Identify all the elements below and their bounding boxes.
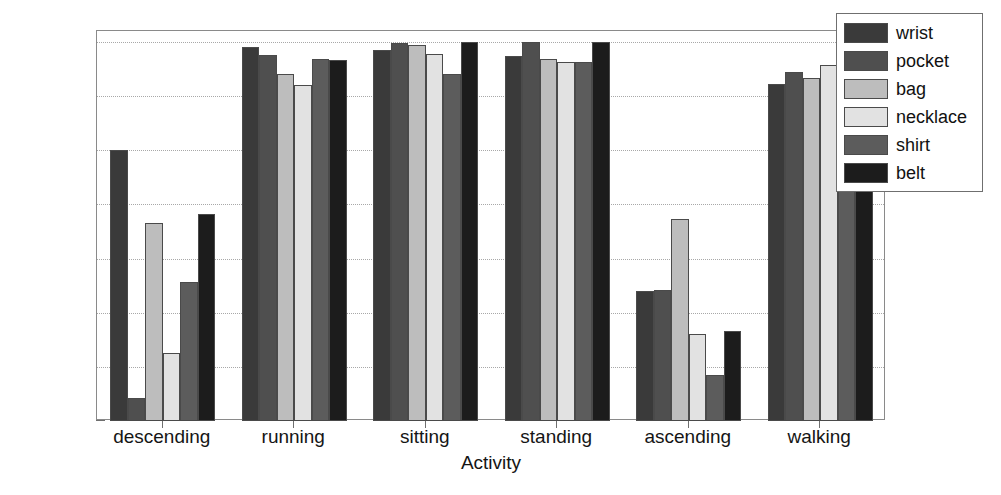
bar (575, 62, 593, 421)
bar (294, 85, 312, 421)
legend-swatch-shirt (844, 135, 888, 155)
x-axis-tick-label: walking (788, 426, 851, 448)
legend-label: belt (896, 164, 925, 182)
bar (180, 282, 198, 421)
x-axis-tick-label: sitting (400, 426, 450, 448)
legend-swatch-bag (844, 79, 888, 99)
legend-label: pocket (896, 52, 949, 70)
legend-item: pocket (844, 47, 982, 75)
bar (391, 43, 409, 421)
x-axis-tick-label: running (262, 426, 325, 448)
legend-item: belt (844, 159, 982, 187)
gridline (97, 204, 884, 205)
bar (706, 375, 724, 421)
bar (426, 54, 444, 421)
bar (671, 219, 689, 421)
legend-label: necklace (896, 108, 967, 126)
bar (242, 47, 260, 421)
bar (163, 353, 181, 421)
bar (128, 398, 146, 421)
bar (277, 74, 295, 421)
bar-chart-figure: Classification accuracy (%) Activity 304… (0, 0, 1001, 495)
legend-swatch-wrist (844, 23, 888, 43)
x-axis-tick-label: ascending (644, 426, 731, 448)
bar (110, 150, 128, 421)
bar (557, 62, 575, 421)
bar (373, 50, 391, 421)
bar (785, 72, 803, 421)
legend: wristpocketbagnecklaceshirtbelt (836, 13, 983, 192)
legend-item: necklace (844, 103, 982, 131)
gridline (97, 96, 884, 97)
plot-area (96, 30, 885, 420)
x-axis-tick-label: standing (520, 426, 592, 448)
bar (259, 55, 277, 421)
bar (522, 42, 540, 421)
legend-label: bag (896, 80, 926, 98)
bar (654, 290, 672, 421)
bar (145, 223, 163, 421)
legend-swatch-pocket (844, 51, 888, 71)
bar (636, 291, 654, 421)
bar (329, 60, 347, 421)
bar (198, 214, 216, 421)
y-axis-tick-mark (96, 420, 105, 421)
x-axis-tick-label: descending (113, 426, 210, 448)
bar (505, 56, 523, 421)
bar (592, 42, 610, 421)
legend-swatch-belt (844, 163, 888, 183)
bar (443, 74, 461, 421)
bar (724, 331, 742, 421)
bar (312, 59, 330, 421)
bar (803, 78, 821, 421)
legend-item: shirt (844, 131, 982, 159)
bar (461, 42, 479, 421)
legend-item: wrist (844, 19, 982, 47)
legend-item: bag (844, 75, 982, 103)
bar (408, 45, 426, 421)
legend-label: wrist (896, 24, 933, 42)
gridline (97, 42, 884, 43)
bar (768, 84, 786, 421)
bar (540, 59, 558, 421)
gridline (97, 150, 884, 151)
legend-label: shirt (896, 136, 930, 154)
legend-swatch-necklace (844, 107, 888, 127)
bar (689, 334, 707, 421)
x-axis-title: Activity (96, 452, 886, 474)
